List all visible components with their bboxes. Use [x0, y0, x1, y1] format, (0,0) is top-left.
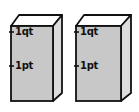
carton-left: 1qt 1pt	[0, 0, 70, 112]
carton-box-icon	[0, 0, 70, 112]
pint-mark-label: 1pt	[15, 61, 33, 71]
pint-mark-label: 1pt	[80, 61, 98, 71]
quart-mark-label: 1qt	[15, 27, 33, 37]
carton-right: 1qt 1pt	[69, 0, 139, 112]
quart-mark-label: 1qt	[80, 27, 98, 37]
carton-box-icon	[69, 0, 139, 112]
